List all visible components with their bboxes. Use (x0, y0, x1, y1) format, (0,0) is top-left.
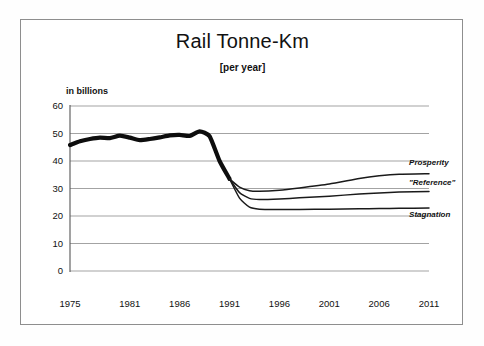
series-label: Stagnation (409, 210, 450, 219)
series-line-reference (230, 179, 429, 200)
y-tick-label: 0 (58, 265, 63, 276)
x-tick-label: 2006 (369, 298, 390, 309)
y-tick-label: 30 (52, 183, 63, 194)
y-tick-label: 60 (52, 100, 63, 111)
page-background: Rail Tonne-Km [per year] in billions 010… (0, 0, 484, 346)
x-tick-label: 2001 (319, 298, 340, 309)
series-line-historical (70, 131, 230, 179)
y-tick-label: 10 (52, 238, 63, 249)
x-tick-label: 1996 (269, 298, 290, 309)
x-tick-label: 1991 (219, 298, 240, 309)
chart-frame: Rail Tonne-Km [per year] in billions 010… (20, 19, 463, 325)
y-tick-label: 20 (52, 210, 63, 221)
series-label: "Reference" (409, 178, 455, 187)
x-axis-tick-labels: 19751981198619911996200120062011 (59, 298, 439, 309)
x-tick-label: 1975 (59, 298, 80, 309)
y-axis-tick-labels: 0102030405060 (52, 100, 63, 276)
x-tick-label: 1986 (169, 298, 190, 309)
y-tick-label: 50 (52, 128, 63, 139)
gridlines (70, 106, 429, 271)
data-series (70, 131, 429, 209)
x-tick-label: 2011 (419, 298, 439, 309)
x-tick-label: 1981 (119, 298, 140, 309)
y-tick-label: 40 (52, 155, 63, 166)
series-label: Prosperity (409, 158, 449, 167)
chart-plot-area: 0102030405060 19751981198619911996200120… (21, 20, 464, 326)
